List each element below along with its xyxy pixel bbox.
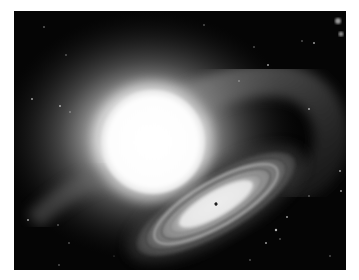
- star: [101, 90, 205, 194]
- binary-star-scene: [14, 11, 346, 270]
- space-illustration: [14, 11, 346, 270]
